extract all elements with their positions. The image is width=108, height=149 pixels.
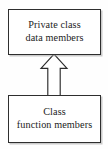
class-box-private-data-members-line-2: data members: [25, 32, 83, 45]
uml-class-diagram: Private class data members Class functio…: [0, 0, 108, 149]
class-box-class-function-members-line-1: Class: [43, 106, 66, 119]
class-box-private-data-members-line-1: Private class: [28, 19, 81, 32]
class-box-class-function-members: Class function members: [8, 95, 101, 143]
class-box-private-data-members: Private class data members: [8, 9, 101, 55]
class-box-class-function-members-line-2: function members: [17, 119, 92, 132]
inheritance-arrow-icon: [38, 50, 70, 98]
